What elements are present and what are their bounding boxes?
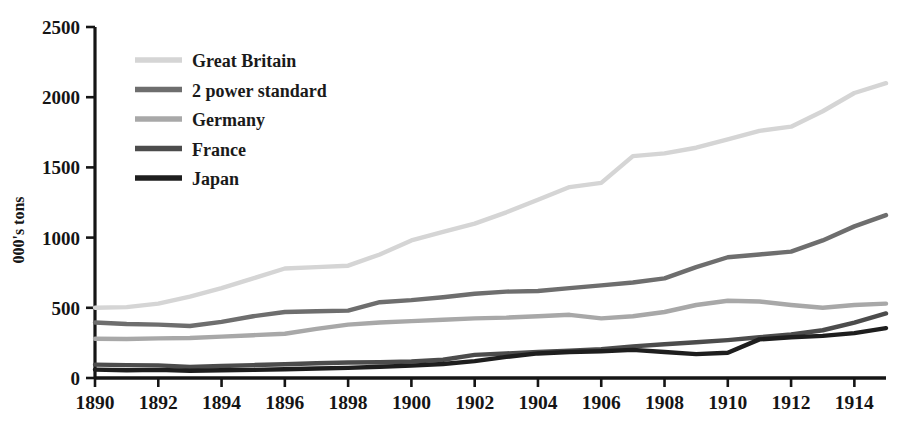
x-tick-label: 1896 [265,392,304,413]
legend-label-great-britain: Great Britain [192,51,296,71]
x-tick-label: 1904 [518,392,557,413]
x-tick-label: 1900 [392,392,431,413]
y-tick-label: 500 [52,298,81,319]
x-tick-label: 1892 [139,392,178,413]
x-tick-label: 1910 [708,392,747,413]
y-tick-label: 0 [71,368,81,389]
y-tick-label: 1500 [42,157,80,178]
chart-canvas: 05001000150020002500 1890189218941896189… [0,0,904,430]
x-tick-label: 1902 [455,392,494,413]
y-axis-title: 000's tons [10,196,27,263]
x-tick-label: 1890 [76,392,115,413]
x-tick-label: 1894 [202,392,241,413]
y-tick-label: 2500 [42,17,80,38]
line-chart: 05001000150020002500 1890189218941896189… [0,0,904,430]
y-tick-label: 1000 [42,228,80,249]
legend-label-germany: Germany [192,110,265,130]
legend-label-japan: Japan [192,169,239,189]
x-tick-label: 1912 [772,392,811,413]
x-tick-label: 1908 [645,392,684,413]
legend-label-2-power-standard: 2 power standard [192,81,327,101]
legend-label-france: France [192,140,246,160]
x-tick-label: 1914 [835,392,874,413]
x-tick-label: 1906 [582,392,621,413]
x-tick-label: 1898 [329,392,368,413]
y-tick-label: 2000 [42,87,80,108]
